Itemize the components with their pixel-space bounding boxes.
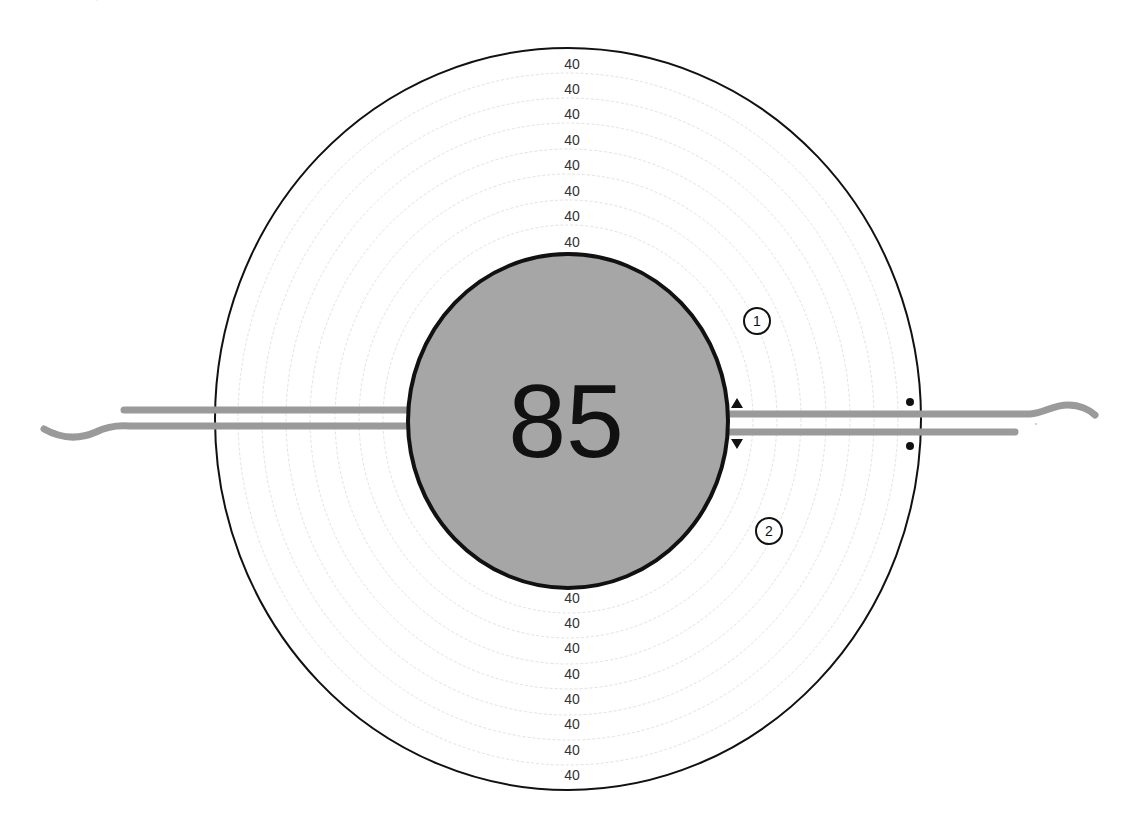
target-diagram: 85 40 40 40 40 40 40 40 40 40 40 40 40 4… bbox=[0, 0, 1129, 837]
ring-label: 40 bbox=[564, 157, 580, 173]
center-value: 85 bbox=[508, 363, 624, 479]
ring-label: 40 bbox=[564, 234, 580, 250]
ring-label: 40 bbox=[564, 183, 580, 199]
ring-label: 40 bbox=[564, 767, 580, 783]
ring-label: 40 bbox=[564, 56, 580, 72]
speck bbox=[1035, 423, 1037, 425]
ring-label: 40 bbox=[564, 106, 580, 122]
ring-label: 40 bbox=[564, 132, 580, 148]
marker-1-label: 1 bbox=[753, 313, 761, 329]
marker-2: 2 bbox=[756, 518, 782, 544]
ring-label: 40 bbox=[564, 590, 580, 606]
ring-label: 40 bbox=[564, 81, 580, 97]
marker-1: 1 bbox=[744, 308, 770, 334]
ring-label: 40 bbox=[564, 716, 580, 732]
dot-lower bbox=[906, 442, 914, 450]
marker-2-label: 2 bbox=[765, 523, 773, 539]
ring-label: 40 bbox=[564, 666, 580, 682]
ring-label: 40 bbox=[564, 640, 580, 656]
ring-label: 40 bbox=[564, 742, 580, 758]
dot-upper bbox=[906, 398, 914, 406]
ring-label: 40 bbox=[564, 208, 580, 224]
ring-label: 40 bbox=[564, 615, 580, 631]
ring-label: 40 bbox=[564, 691, 580, 707]
